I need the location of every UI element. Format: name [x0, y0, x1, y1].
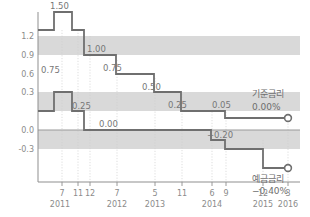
y-axis-labels: 1.2 0.9 0.6 0.3 0.0 -0.3 [18, 32, 34, 154]
value-label: 1.00 [87, 44, 106, 54]
value-label: 0.75 [103, 63, 122, 73]
value-label: 0.75 [41, 65, 60, 75]
value-label: 0.00 [99, 119, 118, 129]
x-year-label: 2011 [50, 200, 70, 209]
y-tick-label: 0.6 [21, 70, 34, 79]
base-rate-value-label: 0.00% [252, 102, 281, 112]
x-month-label: 6 [209, 189, 214, 198]
y-tick-label: 1.2 [21, 32, 34, 41]
y-tick-label: 0.9 [21, 51, 34, 60]
deposit-rate-name-label: 예금금리 [252, 174, 284, 184]
y-tick-label: 0.3 [21, 88, 34, 97]
x-month-label: 12 [85, 189, 95, 198]
x-month-label: 9 [223, 189, 228, 198]
y-tick-label: 0.0 [21, 126, 34, 135]
x-month-label: 12 [258, 189, 268, 198]
x-axis-year-labels: 2011 2012 2013 2014 2015 2016 [50, 200, 298, 209]
value-label: 0.05 [212, 100, 231, 110]
value-label: 0.50 [142, 82, 161, 92]
x-year-label: 2013 [145, 200, 165, 209]
x-year-label: 2016 [278, 200, 298, 209]
x-month-label: 11 [177, 189, 187, 198]
x-month-label: 7 [59, 189, 64, 198]
value-label: 1.50 [50, 1, 69, 11]
x-month-label: 3 [285, 189, 290, 198]
value-label: 0.25 [168, 100, 187, 110]
x-year-label: 2014 [202, 200, 222, 209]
x-year-label: 2015 [253, 200, 273, 209]
base-rate-name-label: 기준금리 [252, 89, 284, 99]
band-0.9-1.2 [38, 36, 300, 55]
x-month-label: 5 [152, 189, 157, 198]
x-year-label: 2012 [107, 200, 127, 209]
end-marker-base-rate [285, 115, 292, 122]
chart-svg: 1.2 0.9 0.6 0.3 0.0 -0.3 1.50 1.00 0.75 … [0, 0, 310, 217]
x-month-label: 7 [114, 189, 119, 198]
value-label: −0.20 [207, 130, 233, 140]
x-month-label: 11 [73, 189, 83, 198]
y-tick-label: -0.3 [18, 145, 34, 154]
interest-rate-step-chart: 1.2 0.9 0.6 0.3 0.0 -0.3 1.50 1.00 0.75 … [0, 0, 310, 217]
band-neg0.3-0.0 [38, 130, 300, 149]
end-marker-deposit-rate [285, 165, 292, 172]
value-label: 0.25 [72, 101, 91, 111]
data-value-labels: 1.50 1.00 0.75 0.75 0.25 0.50 0.00 0.25 … [41, 1, 233, 140]
